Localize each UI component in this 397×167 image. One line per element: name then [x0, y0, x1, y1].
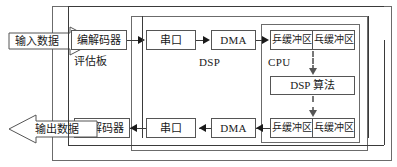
pong-buffer-in-block: 乓缓冲区 — [312, 30, 355, 50]
codec-in-block: 编解码器 — [71, 30, 127, 50]
block-diagram-canvas: 评估板 DSP CPU 输入数据 编解码器 串口 DMA 乒缓冲区 乓缓冲区 D… — [0, 0, 397, 167]
arrowhead-codec-out — [130, 124, 137, 132]
serial-in-block: 串口 — [146, 30, 196, 50]
cpu-label: CPU — [268, 57, 291, 68]
ping-buffer-in-block: 乒缓冲区 — [270, 30, 313, 50]
arrowhead-serial-out — [199, 124, 206, 132]
ping-buffer-out-block: 乒缓冲区 — [270, 118, 313, 138]
output-data-label: 输出数据 — [8, 114, 125, 144]
arrowhead-dma-out — [256, 124, 263, 132]
bus-bottom-return — [68, 145, 384, 146]
pong-buffer-out-block: 乓缓冲区 — [312, 118, 355, 138]
dsp-inner-vertical-right — [368, 16, 369, 138]
eval-board-label: 评估板 — [74, 56, 107, 67]
dsp-label: DSP — [199, 57, 220, 68]
arrowhead-dma-in — [203, 36, 210, 44]
bus-vertical-left — [68, 6, 69, 145]
serial-out-block: 串口 — [146, 118, 196, 138]
dma-out-block: DMA — [211, 118, 256, 138]
output-data-block-arrow: 输出数据 — [8, 114, 98, 144]
bus-top-segment — [68, 6, 384, 7]
arrowhead-buffer-in — [262, 36, 269, 44]
dsp-inner-vertical-left — [142, 16, 143, 138]
dma-in-block: DMA — [211, 30, 256, 50]
arrowhead-algorithm-in — [309, 68, 317, 75]
arrowhead-buffer-out — [309, 110, 317, 117]
dsp-algorithm-block: DSP 算法 — [270, 76, 355, 95]
bus-vertical-right — [384, 40, 385, 145]
